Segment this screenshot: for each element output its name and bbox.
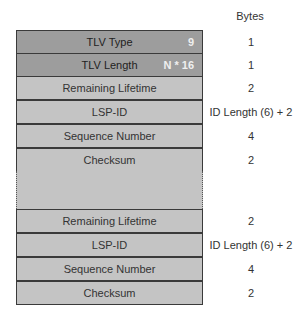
entry1-sequence-number-field: Sequence Number — [16, 124, 203, 148]
field-label: LSP-ID — [92, 239, 127, 251]
field-label: Remaining Lifetime — [62, 215, 156, 227]
entryn-remaining-lifetime-field: Remaining Lifetime — [16, 209, 203, 233]
entry1-remaining-lifetime-field: Remaining Lifetime — [16, 76, 203, 100]
entryn-checksum-bytes: 2 — [205, 281, 297, 305]
field-value: 9 — [188, 31, 194, 53]
entry1-remaining-lifetime-bytes: 2 — [205, 76, 297, 100]
tlv-length-field: TLV Length N * 16 — [16, 53, 203, 77]
entry1-lsp-id-field: LSP-ID — [16, 100, 203, 124]
field-value: N * 16 — [163, 54, 194, 76]
repeated-entries-gap — [16, 171, 203, 209]
entryn-lsp-id-field: LSP-ID — [16, 233, 203, 257]
entry1-checksum-bytes: 2 — [205, 148, 297, 172]
field-label: Checksum — [84, 154, 136, 166]
field-label: Sequence Number — [64, 263, 156, 275]
field-label: LSP-ID — [92, 106, 127, 118]
tlv-type-field: TLV Type 9 — [16, 30, 203, 54]
entry1-checksum-field: Checksum — [16, 148, 203, 172]
entryn-remaining-lifetime-bytes: 2 — [205, 209, 297, 233]
entryn-sequence-number-bytes: 4 — [205, 257, 297, 281]
field-label: Remaining Lifetime — [62, 82, 156, 94]
field-label: Checksum — [84, 287, 136, 299]
entryn-sequence-number-field: Sequence Number — [16, 257, 203, 281]
field-label: TLV Length — [81, 59, 137, 71]
bytes-column-header: Bytes — [220, 10, 280, 22]
field-label: TLV Type — [86, 36, 132, 48]
entry1-lsp-id-bytes: ID Length (6) + 2 — [205, 100, 297, 124]
tlv-type-bytes: 1 — [205, 30, 297, 54]
tlv-length-bytes: 1 — [205, 53, 297, 77]
entryn-lsp-id-bytes: ID Length (6) + 2 — [205, 233, 297, 257]
entry1-sequence-number-bytes: 4 — [205, 124, 297, 148]
field-label: Sequence Number — [64, 130, 156, 142]
entryn-checksum-field: Checksum — [16, 281, 203, 305]
